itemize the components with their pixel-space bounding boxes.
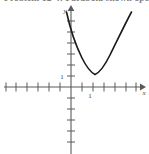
- x-axis-label: x: [141, 89, 146, 97]
- y-axis-arrow-icon: [68, 5, 75, 11]
- x-axis-one-label: 1: [88, 92, 92, 100]
- parabola-curve: [67, 12, 132, 75]
- graph-figure: Problem 12-4: Parabola shown opening up: [0, 0, 149, 154]
- y-axis-one-label: 1: [60, 73, 64, 81]
- coordinate-plane: 1 1 y x: [0, 0, 149, 154]
